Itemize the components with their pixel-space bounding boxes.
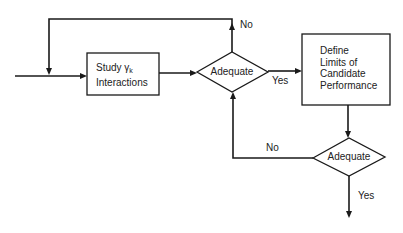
gamma-subscript: k: [129, 67, 133, 74]
define-box-line2: Limits of: [320, 57, 388, 69]
decision1-yes-arrowhead-icon: [295, 68, 302, 74]
flowchart-canvas: [0, 0, 403, 233]
decision2-label: Adequate: [324, 151, 374, 163]
decision2-yes-label: Yes: [358, 190, 374, 202]
decision2-no-label: No: [266, 142, 279, 154]
decision1-yes-label: Yes: [272, 75, 288, 87]
define-box-line1: Define: [320, 45, 388, 57]
define-box-line4: Performance: [320, 80, 388, 92]
entry-arrowhead-icon: [80, 73, 87, 79]
decision1-no-label: No: [240, 19, 253, 31]
decision1-no-arrowhead-icon: [229, 23, 235, 30]
study-gamma-text: Study γ: [96, 62, 129, 73]
study-to-decision1-arrowhead-icon: [190, 70, 197, 76]
decision2-no-arrowhead-icon: [230, 92, 236, 99]
study-box-line1: Study γk: [96, 62, 158, 77]
study-box-label: Study γk Interactions: [96, 62, 158, 88]
define-to-decision2-arrowhead-icon: [345, 131, 351, 138]
define-box-label: Define Limits of Candidate Performance: [320, 45, 388, 91]
study-box-line2: Interactions: [96, 77, 158, 89]
loop-entry-arrowhead-icon: [46, 68, 52, 75]
decision1-label: Adequate: [207, 66, 257, 78]
define-box-line3: Candidate: [320, 68, 388, 80]
decision2-yes-arrowhead-icon: [346, 211, 352, 218]
